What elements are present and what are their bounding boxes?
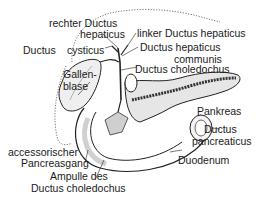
label-ductus-cysticus-line1: Ductus	[23, 45, 56, 56]
label-rechter-ductus-hepaticus-line2: hepaticus	[80, 29, 125, 40]
label-accessorischer-pancreasgang-line2: Pancreasgang	[21, 158, 89, 169]
label-gallenblase-line1: Gallen-	[63, 69, 97, 80]
label-pankreas: Pankreas	[197, 106, 241, 117]
label-ampulle-line2: Ductus choledochus	[31, 183, 126, 194]
anatomy-diagram: rechter Ductus hepaticus linker Ductus h…	[0, 0, 259, 197]
label-duodenum: Duodenum	[178, 155, 229, 166]
label-linker-ductus-hepaticus: linker Ductus hepaticus	[137, 28, 246, 39]
label-ductus-cysticus-line2: cysticus	[67, 45, 104, 56]
label-gallenblase-line2: blase	[63, 81, 88, 92]
common-bile-duct	[118, 48, 121, 100]
label-ductus-pancreaticus-line2: pancreaticus	[192, 136, 252, 147]
label-ductus-hepaticus-communis-line1: Ductus hepaticus	[140, 42, 221, 53]
label-ductus-choledochus: Ductus choledochus	[135, 64, 230, 75]
label-ductus-pancreaticus-line1: Ductus	[204, 124, 237, 135]
label-ampulle-line1: Ampulle des	[50, 171, 108, 182]
